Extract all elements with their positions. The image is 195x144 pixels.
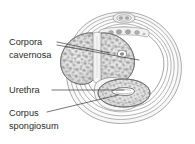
label-corpus-spongiosum-line1: Corpus (9, 108, 39, 118)
label-urethra: Urethra (9, 85, 41, 95)
label-corpora-cavernosa-line1: Corpora (9, 37, 43, 47)
dorsal-vessels (113, 13, 135, 23)
label-corpus-spongiosum-line2: spongiosum (9, 121, 59, 131)
septum (93, 32, 101, 83)
label-corpora-cavernosa: Corpora cavernosa (9, 37, 52, 60)
anatomy-figure: Corpora cavernosa Urethra Corpus spongio… (0, 0, 195, 144)
label-corpora-cavernosa-line2: cavernosa (9, 50, 52, 60)
label-corpus-spongiosum: Corpus spongiosum (9, 108, 59, 131)
label-urethra-line1: Urethra (9, 85, 41, 95)
